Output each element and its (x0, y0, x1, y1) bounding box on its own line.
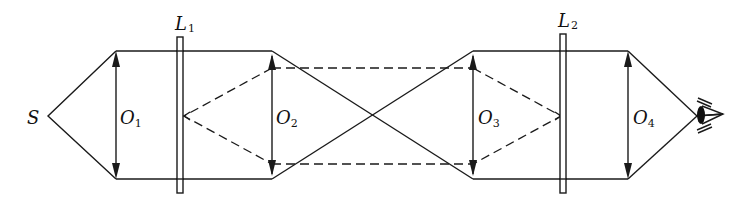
ray-diagram: S L1 L2 O1 O2 O3 O4 (0, 0, 756, 200)
source-rays (48, 51, 116, 179)
label-o2: O2 (276, 107, 298, 130)
label-l2: L2 (557, 10, 578, 32)
object-o4 (624, 51, 632, 179)
object-o1 (112, 51, 120, 179)
parallel-beam-1 (116, 51, 272, 179)
label-l1: L1 (174, 13, 195, 35)
virtual-rays-dashed (184, 68, 561, 164)
label-o4: O4 (633, 107, 655, 130)
label-o3: O3 (478, 107, 500, 130)
eye-icon (697, 98, 723, 133)
label-o1: O1 (120, 107, 142, 130)
object-o2 (268, 54, 276, 176)
lens-l1 (177, 37, 183, 193)
object-o3 (469, 54, 477, 176)
lens-l2 (560, 34, 566, 193)
parallel-beam-2 (473, 51, 628, 179)
arrowhead-l1-icon (184, 112, 190, 120)
label-s: S (27, 107, 39, 128)
crossing-rays (272, 51, 473, 179)
